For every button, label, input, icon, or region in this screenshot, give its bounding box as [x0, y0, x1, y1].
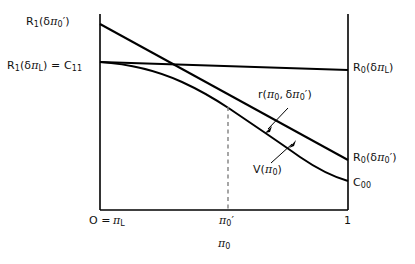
label-r1-delta-piL-equals-c11: R1(δπL) = C11: [7, 60, 82, 73]
label-c00: C00: [353, 177, 371, 190]
label-r1-delta-pi0-prime: R1(δπ0′): [26, 16, 70, 29]
label-r0-delta-piL: R0(δπL): [353, 62, 394, 75]
v-label-leader-line: [271, 144, 292, 163]
x-tick-label-one: 1: [344, 215, 351, 227]
flat-risk-line: [100, 62, 348, 70]
bayes-risk-curve: [100, 62, 348, 181]
v-label-arrowhead-icon: [289, 140, 296, 148]
x-axis-title-pi0: π0: [218, 238, 231, 251]
diagram-canvas: [0, 0, 415, 264]
label-r0-delta-pi0-prime: R0(δπ0′): [353, 152, 397, 165]
r-label-arrowhead-icon: [265, 126, 272, 133]
x-tick-label-origin-piL: O = πL: [89, 215, 125, 228]
figure-container: R1(δπ0′) R1(δπL) = C11 R0(δπL) R0(δπ0′) …: [0, 0, 415, 264]
x-tick-label-pi0-prime: π0′: [219, 215, 234, 228]
label-r-pi0-delta-pi0-prime: r(π0, δπ0′): [258, 89, 312, 102]
label-v-pi0: V(π0): [253, 164, 282, 177]
